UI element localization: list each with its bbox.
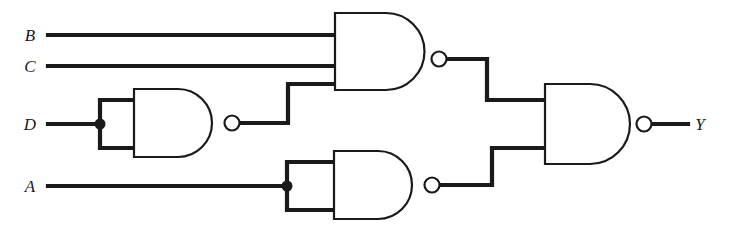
gate-a-inverter-bubble xyxy=(425,178,440,193)
gate-top-nand3-bubble xyxy=(432,52,447,67)
input-label-d: D xyxy=(23,115,37,134)
gate-d-inverter-bubble xyxy=(225,116,240,131)
gate-d-inverter-body xyxy=(134,89,212,157)
wire-top-nand-output xyxy=(446,59,545,100)
gate-output-nand2-bubble xyxy=(637,117,652,132)
input-label-b: B xyxy=(25,26,36,45)
wire-d-inverted xyxy=(239,84,335,123)
input-label-c: C xyxy=(24,57,36,76)
gate-top-nand3-body xyxy=(335,13,424,90)
wire-a-inverted xyxy=(439,148,545,185)
gate-top-nand3 xyxy=(335,13,447,90)
junction-dot-a xyxy=(282,181,293,192)
input-label-a: A xyxy=(24,177,36,196)
gate-d-inverter xyxy=(134,89,240,157)
output-label-y: Y xyxy=(695,115,706,134)
gate-output-nand2 xyxy=(545,84,652,164)
gate-a-inverter-body xyxy=(334,151,412,219)
circuit-canvas: B C D A Y xyxy=(0,0,731,241)
logic-circuit-diagram: B C D A Y xyxy=(0,0,731,241)
gate-output-nand2-body xyxy=(545,84,630,164)
gate-a-inverter xyxy=(334,151,440,219)
wire-input-d xyxy=(48,100,134,148)
junction-dot-d xyxy=(95,119,106,130)
